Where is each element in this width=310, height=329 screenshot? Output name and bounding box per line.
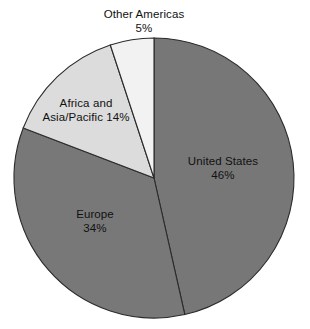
pie-label-europe-value: 34%	[47, 222, 143, 236]
pie-label-europe: Europe 34%	[47, 208, 143, 235]
pie-label-africa-asia-pacific-value: Asia/Pacific 14%	[21, 111, 151, 125]
pie-chart: Other Americas 5% Africa and Asia/Pacifi…	[0, 0, 310, 329]
pie-label-other-americas: Other Americas 5%	[64, 8, 224, 35]
pie-label-united-states: United States 46%	[175, 155, 271, 182]
pie-label-united-states-name: United States	[175, 155, 271, 169]
pie-label-other-americas-value: 5%	[64, 22, 224, 36]
pie-label-united-states-value: 46%	[175, 169, 271, 183]
pie-label-africa-asia-pacific-name: Africa and	[21, 97, 151, 111]
pie-label-africa-asia-pacific: Africa and Asia/Pacific 14%	[21, 97, 151, 124]
pie-label-europe-name: Europe	[47, 208, 143, 222]
pie-label-other-americas-name: Other Americas	[64, 8, 224, 22]
